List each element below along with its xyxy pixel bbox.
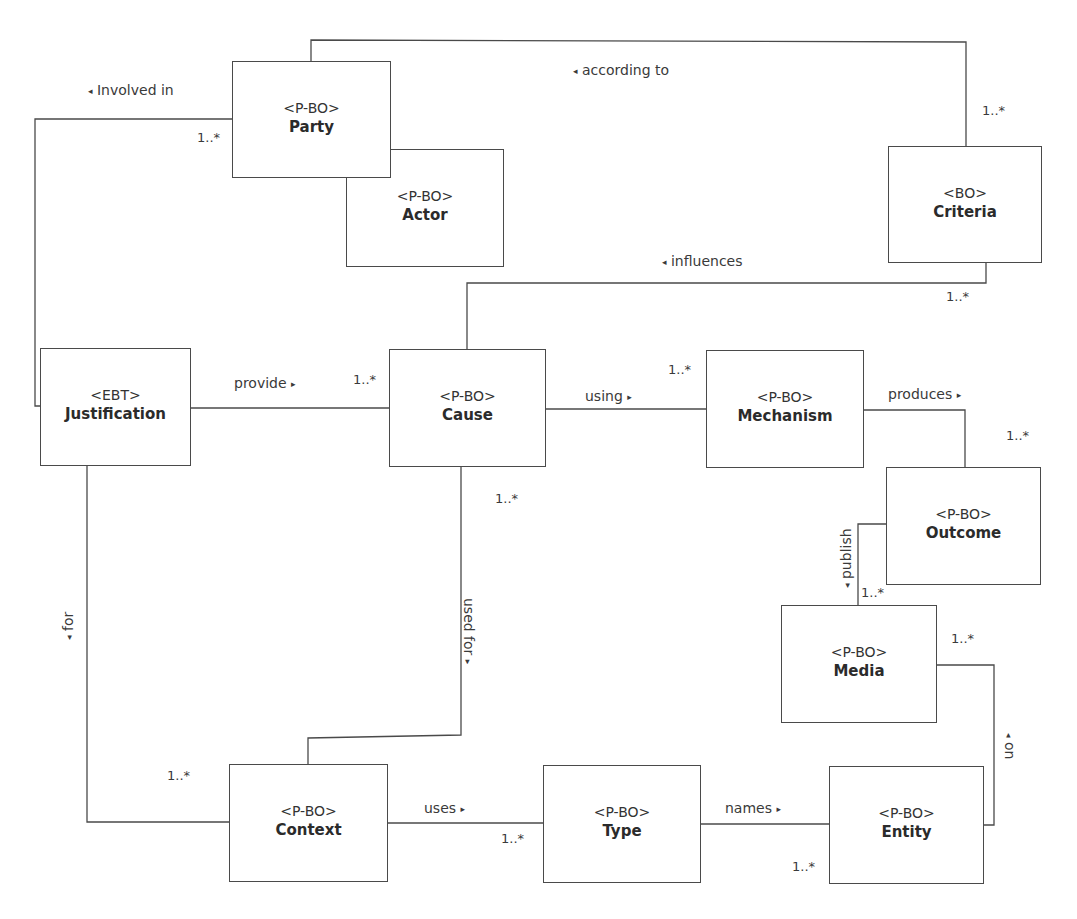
arrow-right-icon: ▸ [461, 801, 466, 817]
arrow-left-icon: ◂ [88, 83, 93, 99]
class-type[interactable]: <P-BO> Type [543, 765, 701, 883]
according-to-line [311, 40, 966, 146]
class-name: Context [275, 820, 341, 840]
multiplicity-mechanism: 1..* [668, 363, 691, 377]
class-name: Media [833, 661, 884, 681]
arrow-right-icon: ▸ [627, 389, 632, 405]
multiplicity-party: 1..* [197, 131, 220, 145]
arrow-right-icon: ▸ [291, 376, 296, 392]
class-name: Cause [442, 405, 493, 425]
label-provide: provide ▸ [234, 375, 296, 392]
arrow-right-icon: ▸ [776, 801, 781, 817]
class-name: Entity [881, 822, 931, 842]
class-name: Actor [402, 205, 447, 225]
multiplicity-type: 1..* [501, 832, 524, 846]
label-for: ◂ for [60, 612, 77, 640]
multiplicity-context: 1..* [167, 769, 190, 783]
arrow-right-icon: ▸ [460, 660, 476, 665]
stereotype: <P-BO> [831, 643, 888, 661]
used-for-line [308, 467, 461, 764]
stereotype: <P-BO> [280, 802, 337, 820]
class-outcome[interactable]: <P-BO> Outcome [886, 467, 1041, 585]
label-on: ◂ on [1001, 733, 1018, 759]
label-uses: uses ▸ [424, 800, 465, 817]
label-used-for: used for ▸ [460, 598, 477, 664]
stereotype: <P-BO> [935, 505, 992, 523]
class-name: Criteria [933, 202, 997, 222]
stereotype: <P-BO> [397, 187, 454, 205]
label-influences: ◂ influences [662, 253, 743, 270]
arrow-left-icon: ◂ [573, 63, 578, 79]
class-name: Type [602, 821, 641, 841]
stereotype: <P-BO> [283, 99, 340, 117]
multiplicity-cause-bottom: 1..* [495, 492, 518, 506]
stereotype: <P-BO> [878, 804, 935, 822]
arrow-left-icon: ◂ [61, 635, 77, 640]
for-line [87, 466, 229, 822]
influences-line [467, 263, 986, 349]
multiplicity-outcome: 1..* [1006, 429, 1029, 443]
label-produces: produces ▸ [888, 386, 961, 403]
stereotype: <P-BO> [757, 388, 814, 406]
stereotype: <BO> [943, 184, 987, 202]
label-involved-in: ◂ Involved in [88, 82, 174, 99]
class-criteria[interactable]: <BO> Criteria [888, 146, 1042, 263]
label-publish: ◂ publish [838, 528, 855, 588]
arrow-left-icon: ◂ [1001, 733, 1017, 738]
class-justification[interactable]: <EBT> Justification [40, 348, 191, 466]
multiplicity-criteria-bottom: 1..* [946, 290, 969, 304]
class-media[interactable]: <P-BO> Media [781, 605, 937, 723]
arrow-right-icon: ▸ [957, 387, 962, 403]
multiplicity-criteria-top: 1..* [982, 104, 1005, 118]
produces-line [864, 410, 965, 467]
multiplicity-media-right: 1..* [951, 632, 974, 646]
class-name: Outcome [926, 523, 1002, 543]
class-context[interactable]: <P-BO> Context [229, 764, 388, 882]
arrow-left-icon: ◂ [839, 583, 855, 588]
class-cause[interactable]: <P-BO> Cause [389, 349, 546, 467]
class-name: Mechanism [737, 406, 832, 426]
multiplicity-cause-left: 1..* [353, 373, 376, 387]
stereotype: <P-BO> [439, 387, 496, 405]
label-according-to: ◂ according to [573, 62, 669, 79]
multiplicity-entity: 1..* [792, 860, 815, 874]
class-party[interactable]: <P-BO> Party [232, 61, 391, 178]
class-name: Party [289, 117, 334, 137]
class-mechanism[interactable]: <P-BO> Mechanism [706, 350, 864, 468]
label-using: using ▸ [585, 388, 632, 405]
arrow-left-icon: ◂ [662, 254, 667, 270]
stereotype: <EBT> [90, 386, 140, 404]
multiplicity-media-top: 1..* [861, 586, 884, 600]
class-name: Justification [65, 404, 166, 424]
class-entity[interactable]: <P-BO> Entity [829, 766, 984, 884]
label-names: names ▸ [725, 800, 781, 817]
stereotype: <P-BO> [594, 803, 651, 821]
